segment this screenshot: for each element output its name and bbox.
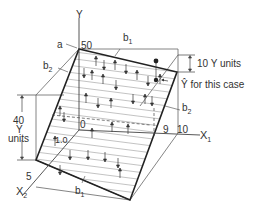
ten-units-bracket [178, 55, 195, 72]
b2-right-label: b2 [182, 103, 191, 115]
origin-label: 0 [80, 120, 86, 130]
yhat-case-label: Ŷ for this case [181, 80, 244, 90]
reference-box [36, 49, 178, 200]
ten-y-units-label: 10 Y units [197, 59, 241, 69]
a-label: a [57, 40, 63, 50]
b1-bottom-label: b1 [75, 186, 84, 198]
intercept-label: 50 [81, 41, 92, 51]
forty-units-label: units [8, 134, 29, 144]
x1-axis-label: X1 [200, 130, 211, 143]
x2-axis-label: X2 [16, 186, 27, 199]
x1-9-label: 9 [163, 125, 169, 135]
b2-left-label: b2 [43, 61, 52, 73]
x2-5-label: 5 [26, 172, 32, 182]
x2-1-label: 1.0 [55, 136, 68, 145]
x1-10-label: 10 [177, 125, 188, 135]
b1-top-label: b1 [123, 33, 132, 45]
y-axis-label: Y [76, 10, 83, 20]
